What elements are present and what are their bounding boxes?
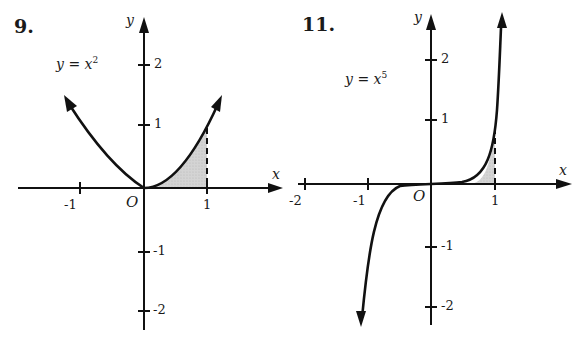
curve-right-arrow-icon — [211, 95, 222, 112]
y-tick-label: -1 — [441, 238, 454, 253]
x-tick-label: -2 — [289, 193, 302, 208]
x-tick-label: -1 — [353, 193, 366, 208]
origin-label: O — [413, 187, 425, 205]
curve-left-arrow-icon — [64, 95, 77, 112]
y-tick-label: -2 — [441, 298, 454, 313]
y-axis-label: y — [414, 9, 422, 25]
x-tick-label: 1 — [491, 193, 499, 208]
figure-canvas — [0, 0, 588, 337]
eq-exp: 5 — [381, 70, 387, 80]
eq-exp: 2 — [92, 55, 98, 65]
eq-sign: = — [68, 56, 80, 72]
shaded-area — [144, 125, 207, 188]
y-axis-label: y — [126, 12, 134, 28]
origin-label: O — [126, 193, 138, 211]
x-axis-label: x — [272, 166, 280, 182]
y-tick-label: 2 — [154, 56, 162, 71]
eq-lhs: y — [345, 71, 353, 87]
x-axis-label: x — [559, 162, 567, 178]
equation-label: y = x5 — [345, 70, 387, 87]
y-tick-label: 1 — [441, 111, 449, 126]
y-axis-arrow-icon — [139, 17, 149, 33]
x-axis-arrow-icon — [268, 183, 283, 193]
y-tick-label: 1 — [154, 116, 162, 131]
x-axis-arrow-icon — [556, 179, 572, 189]
y-tick-label: -1 — [153, 243, 166, 258]
equation-label: y = x2 — [56, 55, 98, 72]
x-tick-label: -1 — [64, 197, 77, 212]
curve-top-arrow-icon — [497, 12, 507, 28]
problem-number: 11. — [302, 13, 335, 35]
y-tick-label: -2 — [153, 302, 166, 317]
eq-lhs: y — [56, 56, 64, 72]
graph-11 — [298, 12, 572, 327]
shaded-area — [470, 128, 495, 184]
eq-sign: = — [357, 71, 369, 87]
problem-number: 9. — [14, 15, 34, 37]
y-axis-arrow-icon — [426, 14, 436, 30]
curve-bottom-arrow-icon — [356, 311, 366, 327]
y-tick-label: 2 — [441, 51, 449, 66]
x-tick-label: 1 — [203, 197, 211, 212]
